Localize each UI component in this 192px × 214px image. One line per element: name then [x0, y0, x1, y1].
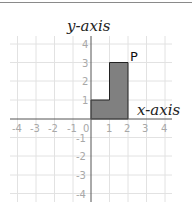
svg-text:2: 2 — [82, 76, 88, 87]
svg-text:-3: -3 — [30, 123, 40, 134]
svg-text:-2: -2 — [76, 151, 86, 162]
svg-text:2: 2 — [124, 123, 130, 134]
svg-text:-4: -4 — [12, 123, 22, 134]
svg-text:-2: -2 — [48, 123, 58, 134]
y-axis-label: y-axis — [66, 17, 111, 35]
x-axis-label: x-axis — [137, 101, 180, 119]
shape-p — [91, 63, 128, 120]
shape-label-p: P — [130, 49, 138, 64]
svg-text:4: 4 — [82, 39, 88, 50]
svg-text:1: 1 — [106, 123, 112, 134]
svg-text:3: 3 — [142, 123, 148, 134]
svg-text:1: 1 — [82, 95, 88, 106]
svg-text:3: 3 — [82, 58, 88, 69]
svg-text:4: 4 — [161, 123, 167, 134]
svg-text:-4: -4 — [76, 189, 86, 200]
svg-text:-1: -1 — [76, 133, 86, 144]
svg-text:-3: -3 — [76, 170, 86, 181]
coordinate-grid: y-axis x-axis P -4 -3 -2 -1 0 1 2 3 4 4 … — [0, 0, 192, 214]
x-tick-labels: -4 -3 -2 -1 0 1 2 3 4 — [12, 123, 167, 134]
